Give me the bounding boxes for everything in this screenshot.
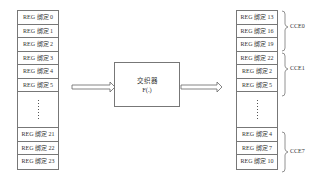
vertical-ellipsis-icon: [257, 100, 258, 120]
output-reg-cell: REG 绑定 10: [237, 155, 277, 169]
ellipsis-cell: [237, 92, 277, 128]
group-label-cce7: CCE7: [290, 148, 305, 154]
interleaver-title: 交织器: [137, 76, 158, 85]
output-reg-cell: REG 绑定 22: [237, 52, 277, 66]
interleaver-box: 交织器 F(.): [114, 62, 180, 107]
group-label-cce0: CCE0: [290, 23, 305, 29]
group-label-cce1: CCE1: [290, 65, 305, 71]
output-reg-cell: REG 绑定 13: [237, 11, 277, 25]
output-reg-cell: REG 绑定 16: [237, 25, 277, 39]
output-reg-cell: REG 绑定 5: [237, 79, 277, 93]
output-reg-column: REG 绑定 13 REG 绑定 16 REG 绑定 19 REG 绑定 22 …: [236, 10, 278, 170]
output-reg-cell: REG 绑定 19: [237, 38, 277, 52]
interleaver-function: F(.): [142, 85, 152, 94]
output-reg-cell: REG 绑定 7: [237, 142, 277, 156]
output-arrow-icon: [181, 82, 222, 92]
output-reg-cell: REG 绑定 2: [237, 65, 277, 79]
input-arrow-icon: [72, 82, 115, 92]
group-brace-icon: [282, 11, 288, 172]
output-reg-cell: REG 绑定 4: [237, 128, 277, 142]
